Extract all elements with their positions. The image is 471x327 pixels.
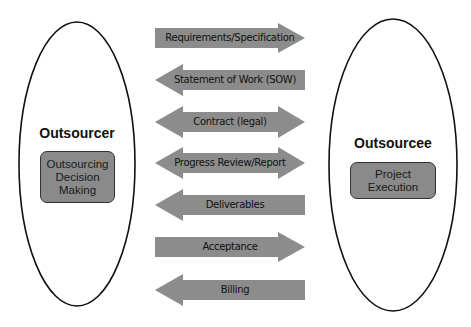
outsourcee-box: Project Execution xyxy=(350,162,436,199)
arrow-label-billing: Billing xyxy=(165,284,305,295)
arrow-label-progress: Progress Review/Report xyxy=(160,157,300,168)
outsourcer-title: Outsourcer xyxy=(27,125,127,141)
outsourcer-box: Outsourcing Decision Making xyxy=(40,151,115,203)
arrow-label-requirements: Requirements/Specification xyxy=(160,32,300,43)
outsourcee-title: Outsourcee xyxy=(343,135,443,151)
arrow-label-acceptance: Acceptance xyxy=(160,241,300,252)
arrow-label-contract: Contract (legal) xyxy=(160,116,300,127)
arrow-label-sow: Statement of Work (SOW) xyxy=(165,74,305,85)
arrow-label-deliverables: Deliverables xyxy=(165,199,305,210)
